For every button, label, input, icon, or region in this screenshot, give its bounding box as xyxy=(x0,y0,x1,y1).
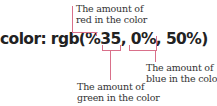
green-bracket-right xyxy=(120,45,121,50)
red-bracket-top xyxy=(72,32,97,33)
green-bracket-bottom xyxy=(102,50,121,51)
blue-leader-line xyxy=(155,50,156,62)
blue-bracket-bottom xyxy=(129,50,157,51)
blue-annotation-line2: blue in the color xyxy=(146,73,217,84)
css-code-line: color: rgb(%35, 0%, 50%) xyxy=(0,30,208,48)
green-leader-line xyxy=(110,50,111,80)
red-annotation-line1: The amount of xyxy=(76,3,147,14)
red-annotation: The amount of red in the color xyxy=(76,3,147,25)
red-bracket-right xyxy=(96,32,97,36)
blue-bracket-right xyxy=(156,36,157,50)
red-annotation-line2: red in the color xyxy=(76,14,147,25)
blue-annotation-line1: The amount of xyxy=(146,62,217,73)
red-leader-line xyxy=(72,6,73,33)
green-annotation-line2: green in the color xyxy=(77,92,160,103)
blue-annotation: The amount of blue in the color xyxy=(146,62,217,84)
green-annotation: The amount of green in the color xyxy=(77,81,160,103)
